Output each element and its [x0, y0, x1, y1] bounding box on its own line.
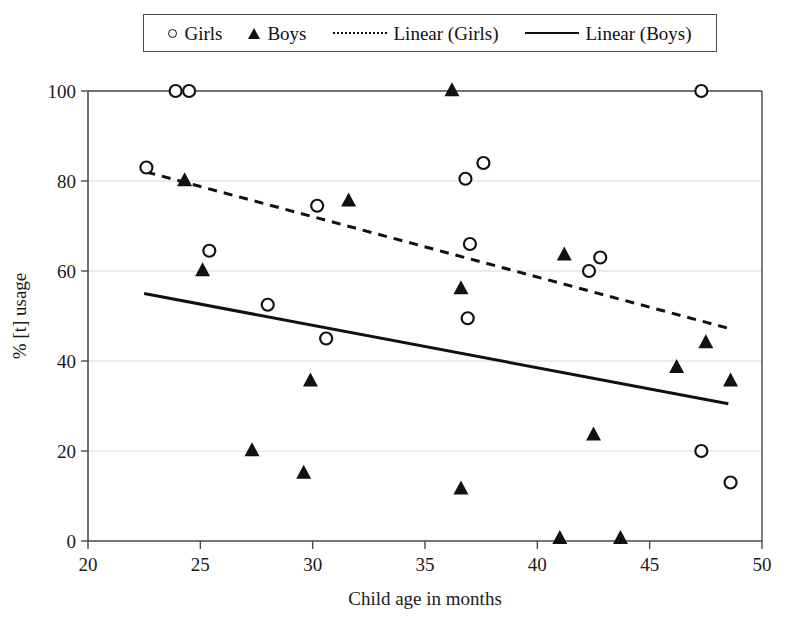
data-point-boys	[586, 427, 601, 441]
data-point-boys	[723, 373, 738, 387]
trendline-boys	[144, 294, 728, 404]
data-point-boys	[195, 262, 210, 276]
data-point-girls	[695, 85, 707, 97]
data-point-boys	[245, 442, 260, 456]
x-axis-tick-label: 35	[416, 554, 435, 575]
data-point-girls	[203, 245, 215, 257]
data-point-boys	[698, 334, 713, 348]
data-point-girls	[311, 200, 323, 212]
x-axis-tick-label: 30	[303, 554, 322, 575]
data-point-girls	[262, 299, 274, 311]
data-point-boys	[613, 530, 628, 544]
data-point-girls	[140, 162, 152, 174]
data-point-boys	[341, 193, 356, 207]
data-point-girls	[594, 252, 606, 264]
data-point-girls	[477, 157, 489, 169]
y-axis-tick-label: 100	[48, 81, 77, 102]
x-axis-tick-label: 40	[528, 554, 547, 575]
data-point-girls	[462, 312, 474, 324]
trendline-girls	[146, 172, 732, 330]
data-point-girls	[725, 477, 737, 489]
x-axis-tick-label: 25	[191, 554, 210, 575]
y-axis-tick-label: 20	[57, 441, 76, 462]
data-point-boys	[444, 82, 459, 96]
y-axis-tick-label: 80	[57, 171, 76, 192]
data-point-boys	[552, 530, 567, 544]
data-point-girls	[459, 173, 471, 185]
y-axis-tick-label: 40	[57, 351, 76, 372]
x-axis-tick-label: 20	[79, 554, 98, 575]
data-point-girls	[464, 238, 476, 250]
x-axis-tick-label: 45	[640, 554, 659, 575]
data-point-boys	[453, 481, 468, 495]
scatter-chart-figure: GirlsBoysLinear (Girls)Linear (Boys) 020…	[0, 0, 795, 617]
y-axis-title: % [t] usage	[9, 273, 30, 360]
x-axis-title: Child age in months	[348, 588, 502, 609]
data-point-girls	[695, 445, 707, 457]
data-point-girls	[170, 85, 182, 97]
data-point-boys	[557, 247, 572, 261]
plot-area: 02040608010020253035404550Child age in m…	[0, 0, 795, 617]
data-point-girls	[183, 85, 195, 97]
data-point-boys	[453, 280, 468, 294]
data-point-girls	[320, 333, 332, 345]
data-point-boys	[296, 465, 311, 479]
data-point-girls	[583, 265, 595, 277]
x-axis-tick-label: 50	[753, 554, 772, 575]
y-axis-tick-label: 0	[67, 531, 77, 552]
y-axis-tick-label: 60	[57, 261, 76, 282]
data-point-boys	[303, 373, 318, 387]
